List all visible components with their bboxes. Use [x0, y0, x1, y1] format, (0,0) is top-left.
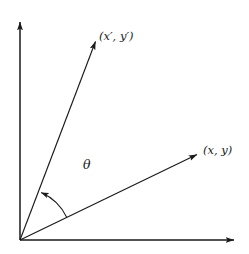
original-vector-ray: [20, 155, 197, 241]
label-angle-theta: θ: [83, 159, 91, 172]
rotated-vector-ray: [20, 42, 96, 241]
rotation-diagram-figure: (x′, y′) (x, y) θ: [0, 0, 249, 254]
label-rotated-point: (x′, y′): [99, 31, 134, 43]
angle-arc: [41, 193, 67, 218]
label-original-point: (x, y): [203, 145, 232, 157]
